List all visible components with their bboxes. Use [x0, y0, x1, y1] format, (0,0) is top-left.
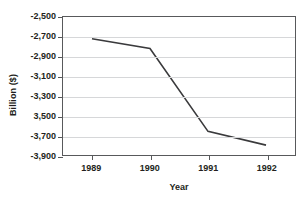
- gridline: [63, 117, 295, 118]
- y-axis-tick-mark: [58, 37, 63, 38]
- y-axis-tick-mark: [58, 137, 63, 138]
- line-chart: Billion ($) -3,900-3,7003,500-3,300-3,10…: [0, 0, 306, 205]
- x-axis-tick-label: 1992: [244, 163, 290, 173]
- x-axis-tick-label: 1991: [185, 163, 231, 173]
- x-axis-tick-mark: [92, 155, 93, 160]
- x-axis-tick-mark: [151, 155, 152, 160]
- gridline: [63, 97, 295, 98]
- gridline: [63, 137, 295, 138]
- y-axis-tick-label: 3,500: [10, 111, 56, 121]
- gridline: [63, 57, 295, 58]
- y-axis-tick-mark: [58, 17, 63, 18]
- y-axis-tick-label: -3,700: [10, 131, 56, 141]
- y-axis-tick-label: -3,100: [10, 71, 56, 81]
- y-axis-tick-mark: [58, 97, 63, 98]
- y-axis-tick-mark: [58, 157, 63, 158]
- x-axis-title: Year: [62, 182, 296, 192]
- x-axis-tick-mark: [209, 155, 210, 160]
- y-axis-tick-mark: [58, 57, 63, 58]
- plot-area: [62, 16, 296, 156]
- gridline: [63, 77, 295, 78]
- y-axis-tick-labels: -3,900-3,7003,500-3,300-3,100-2,900-2,70…: [10, 0, 56, 205]
- y-axis-tick-label: -2,900: [10, 51, 56, 61]
- y-axis-tick-label: -2,700: [10, 31, 56, 41]
- y-axis-tick-mark: [58, 117, 63, 118]
- x-axis-tick-label: 1990: [127, 163, 173, 173]
- y-axis-tick-label: -3,300: [10, 91, 56, 101]
- x-axis-tick-mark: [268, 155, 269, 160]
- y-axis-tick-label: -2,500: [10, 11, 56, 21]
- x-axis-tick-label: 1989: [68, 163, 114, 173]
- y-axis-tick-mark: [58, 77, 63, 78]
- gridline: [63, 37, 295, 38]
- y-axis-tick-label: -3,900: [10, 151, 56, 161]
